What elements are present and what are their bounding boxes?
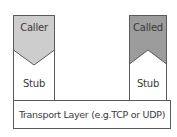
called-label: Called [129,22,167,34]
caller-stub-label: Stub [13,78,55,90]
caller-label: Caller [13,22,55,34]
transport-layer-label: Transport Layer (e.g.TCP or UDP) [13,109,171,121]
called-stub-label: Stub [129,78,167,90]
